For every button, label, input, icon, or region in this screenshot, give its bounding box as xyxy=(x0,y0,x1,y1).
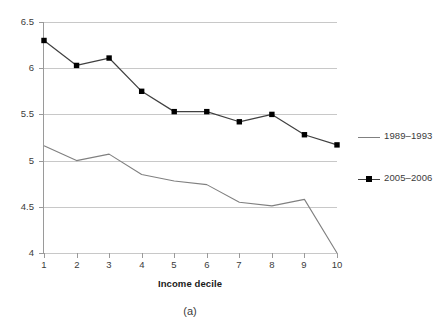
x-axis-title: Income decile xyxy=(43,278,337,289)
series-line-2005-2006 xyxy=(44,40,337,144)
data-point-marker xyxy=(172,109,177,114)
data-point-marker xyxy=(139,89,144,94)
data-point-marker xyxy=(334,142,339,147)
data-point-marker xyxy=(269,112,274,117)
chart-legend: 1989–1993 2005–2006 xyxy=(358,130,444,214)
legend-square-marker-2005-2006 xyxy=(366,176,372,182)
series-line-1989-1993 xyxy=(44,146,337,253)
figure-caption: (a) xyxy=(43,305,337,317)
legend-label-2005-2006: 2005–2006 xyxy=(384,172,432,183)
legend-label-1989-1993: 1989–1993 xyxy=(384,130,432,141)
data-point-marker xyxy=(237,119,242,124)
legend-line-swatch-1989-1993 xyxy=(358,137,380,138)
data-point-marker xyxy=(204,109,209,114)
data-point-marker xyxy=(74,63,79,68)
figure-panel-a: 44.555.566.5 12345678910 Income decile (… xyxy=(0,0,446,336)
legend-item-2005-2006: 2005–2006 xyxy=(358,172,444,188)
data-point-marker xyxy=(106,55,111,60)
data-point-marker xyxy=(41,38,46,43)
data-point-marker xyxy=(302,132,307,137)
legend-item-1989-1993: 1989–1993 xyxy=(358,130,444,146)
